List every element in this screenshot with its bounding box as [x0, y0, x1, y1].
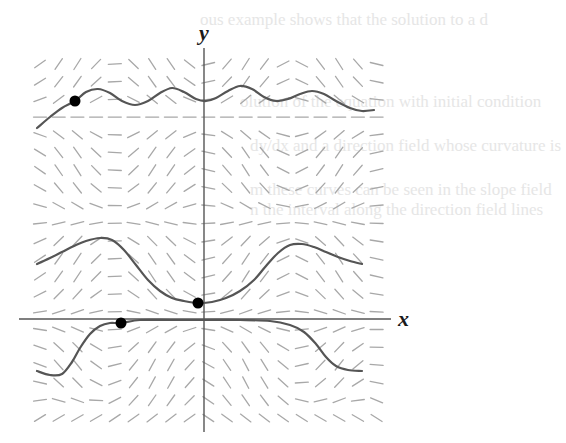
slope-segment: [354, 165, 363, 175]
slope-segment: [183, 223, 196, 225]
slope-segment: [185, 360, 194, 370]
slope-segment: [34, 363, 46, 368]
slope-segment: [74, 59, 81, 70]
slope-segment: [334, 415, 345, 421]
slope-segment: [333, 398, 345, 403]
slope-segment: [128, 97, 140, 103]
slope-segment: [222, 237, 232, 245]
slope-segment: [34, 311, 47, 313]
slope-segment: [295, 364, 308, 367]
slope-segment: [167, 253, 175, 264]
slope-segment: [336, 147, 343, 158]
slope-segment: [71, 327, 83, 332]
slope-segment: [277, 256, 289, 262]
slope-segment: [335, 343, 344, 352]
slope-segment: [128, 132, 140, 138]
slope-segment: [129, 360, 137, 370]
slope-segment: [223, 342, 232, 352]
slope-segment: [91, 290, 102, 298]
slope-segment: [53, 415, 64, 421]
slope-segment: [90, 380, 102, 386]
slope-segment: [259, 203, 271, 209]
slope-segment: [296, 167, 308, 173]
slope-segment: [222, 131, 233, 138]
slope-segment: [221, 327, 233, 332]
slope-segment: [90, 132, 101, 138]
slope-segment: [223, 165, 231, 175]
slope-segment: [167, 59, 174, 70]
slope-segment: [296, 256, 308, 262]
slope-segment: [221, 96, 232, 103]
slope-segment: [370, 63, 383, 66]
slope-segment: [223, 148, 232, 157]
initial-point-upper: [70, 96, 81, 107]
slope-segment: [242, 59, 249, 70]
slope-segment: [223, 360, 230, 371]
slope-segment: [314, 310, 326, 314]
slope-segment: [353, 237, 363, 245]
slope-segment: [167, 77, 175, 87]
slope-segment: [316, 148, 324, 158]
slope-segment: [90, 310, 103, 313]
slope-segment: [149, 59, 156, 70]
slope-segment: [353, 361, 363, 369]
slope-segment: [109, 414, 120, 421]
slope-segment: [277, 274, 289, 280]
slope-segment: [335, 236, 344, 245]
slope-segment: [353, 77, 362, 86]
slope-segment: [127, 311, 140, 314]
slope-segment: [333, 222, 346, 225]
slope-segment: [278, 344, 289, 351]
slope-segment: [91, 361, 102, 369]
slope-segment: [240, 202, 251, 209]
slope-segment: [221, 203, 233, 208]
slope-segment: [90, 400, 103, 401]
slope-segment: [316, 379, 326, 387]
slope-segment: [370, 293, 383, 295]
slope-segment: [277, 292, 289, 296]
slope-segment: [296, 239, 308, 243]
slope-segment: [184, 149, 195, 156]
slope-segment: [296, 415, 307, 422]
slope-segment: [147, 131, 157, 139]
slope-segment: [259, 327, 271, 333]
slope-segment: [370, 99, 383, 101]
slope-segment: [34, 185, 45, 191]
slope-segment: [221, 222, 234, 224]
slope-segment: [333, 310, 345, 314]
slope-segment: [185, 343, 195, 351]
slope-segment: [242, 395, 249, 406]
slope-segment: [146, 222, 159, 225]
slope-segment: [258, 222, 271, 225]
slope-segment: [128, 184, 138, 192]
slope-segment: [185, 378, 194, 388]
slope-segment: [314, 327, 326, 331]
slope-segment: [295, 382, 308, 383]
slope-segment: [167, 147, 175, 157]
slope-segment: [167, 395, 175, 406]
slope-segment: [352, 400, 365, 402]
slope-segment: [129, 78, 139, 86]
slope-segment: [223, 377, 230, 388]
slope-segment: [259, 131, 270, 138]
slope-segment: [34, 345, 46, 349]
slope-segment: [128, 291, 139, 298]
slope-segment: [296, 98, 309, 101]
slope-segment: [370, 275, 383, 278]
slope-segment: [242, 165, 249, 176]
slope-segment: [261, 395, 269, 405]
slope-segment: [334, 202, 345, 209]
slope-segment: [184, 273, 194, 281]
slope-segment: [261, 377, 268, 388]
slope-segment: [184, 184, 195, 191]
slope-segment: [370, 151, 383, 154]
slope-segment: [91, 77, 101, 86]
slope-segment: [242, 253, 249, 264]
slope-segment: [34, 238, 46, 243]
slope-segment: [55, 147, 63, 157]
slope-segment: [333, 327, 345, 332]
slope-segment: [90, 222, 103, 224]
slope-segment: [240, 310, 252, 314]
slope-segment: [370, 80, 383, 83]
upper-curve: [37, 86, 374, 128]
